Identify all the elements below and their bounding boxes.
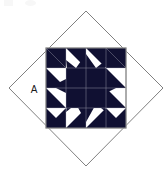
figure-canvas: A [0, 0, 168, 177]
quilt-block-diagram: A [0, 0, 168, 177]
patch-label-a: A [31, 84, 38, 95]
